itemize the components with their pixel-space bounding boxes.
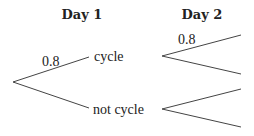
header-day-1: Day 1 <box>62 7 103 22</box>
outcome-day1-cycle: cycle <box>94 49 124 64</box>
probability-tree-diagram: Day 1 Day 2 0.8 cycle not cycle 0.8 <box>0 0 254 136</box>
branch-day2-after-not-cycle-upper <box>162 89 241 109</box>
header-day-2: Day 2 <box>182 7 223 22</box>
outcome-day1-not-cycle: not cycle <box>93 102 144 117</box>
branch-day1-not-cycle <box>13 82 89 108</box>
branch-day2-after-cycle-lower <box>162 56 241 74</box>
branch-day2-after-not-cycle-lower <box>162 109 241 127</box>
probability-day2-after-cycle-upper: 0.8 <box>178 32 196 47</box>
probability-day1-cycle: 0.8 <box>42 54 60 69</box>
branch-day2-after-cycle-upper <box>162 35 241 56</box>
